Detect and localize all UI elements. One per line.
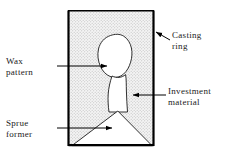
- label-investment-material: Investment material: [168, 86, 211, 107]
- label-investment-material-line1: Investment: [168, 86, 211, 97]
- label-casting-ring: Casting ring: [172, 30, 202, 51]
- label-casting-ring-line2: ring: [172, 41, 202, 52]
- label-wax-pattern-line2: pattern: [6, 67, 33, 78]
- label-sprue-former-line2: former: [6, 129, 32, 140]
- casting-ring-diagram: [0, 0, 241, 160]
- label-casting-ring-line1: Casting: [172, 30, 202, 41]
- label-investment-material-line2: material: [168, 97, 211, 108]
- label-wax-pattern-line1: Wax: [6, 56, 33, 67]
- label-wax-pattern: Wax pattern: [6, 56, 33, 77]
- leader-casting-ring: [156, 32, 170, 40]
- label-sprue-former: Sprue former: [6, 118, 32, 139]
- wax-pattern-shape: [98, 34, 132, 77]
- sprue-channel: [108, 75, 127, 112]
- label-sprue-former-line1: Sprue: [6, 118, 32, 129]
- figure-canvas: Wax pattern Sprue former Casting ring In…: [0, 0, 241, 160]
